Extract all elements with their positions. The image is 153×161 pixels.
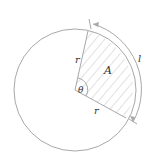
label-area: A bbox=[103, 64, 112, 77]
arc-length-tick-top bbox=[89, 19, 91, 29]
label-arc-length: l bbox=[138, 53, 141, 64]
arrowhead-top-icon bbox=[93, 22, 99, 27]
label-angle: θ bbox=[78, 85, 84, 95]
label-radius-bottom: r bbox=[94, 105, 100, 116]
sector-diagram: r A θ r l bbox=[0, 0, 153, 161]
label-radius-top: r bbox=[75, 54, 81, 65]
